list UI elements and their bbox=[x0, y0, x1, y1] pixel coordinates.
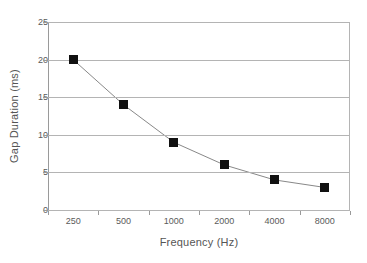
x-tick-mark bbox=[98, 211, 99, 215]
gap-duration-line-chart: Gap Duration (ms) 0510152025 25050010002… bbox=[0, 0, 367, 263]
x-tick-mark bbox=[149, 211, 150, 215]
x-tick-mark bbox=[199, 211, 200, 215]
x-axis-title: Frequency (Hz) bbox=[48, 236, 350, 248]
x-tick-mark bbox=[350, 211, 351, 215]
x-tick-mark bbox=[48, 211, 49, 215]
x-tick-mark bbox=[249, 211, 250, 215]
x-tick-label: 8000 bbox=[300, 217, 350, 226]
x-tick-label: 2000 bbox=[199, 217, 249, 226]
x-tick-label: 4000 bbox=[250, 217, 300, 226]
x-tick-label: 500 bbox=[99, 217, 149, 226]
x-tick-mark bbox=[300, 211, 301, 215]
x-tick-label: 250 bbox=[48, 217, 98, 226]
x-axis-ticks: 2505001000200040008000 bbox=[0, 0, 367, 263]
x-tick-label: 1000 bbox=[149, 217, 199, 226]
